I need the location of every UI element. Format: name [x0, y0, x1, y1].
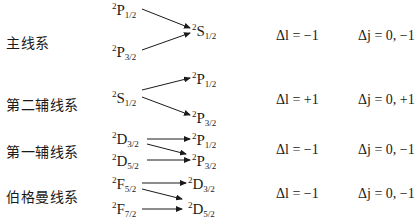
term-2D5/2: 2D5/2	[188, 200, 215, 219]
delta-j: Δj = 0, +1	[358, 92, 415, 108]
term-2D3/2: 2D3/2	[188, 175, 215, 194]
arrow-d32-p32	[147, 144, 186, 154]
term-2D5/2: 2D5/2	[112, 152, 139, 171]
term-2F7/2: 2F7/2	[112, 200, 136, 219]
term-2P1/2: 2P1/2	[192, 70, 216, 89]
arrow-f52-d52	[142, 189, 182, 199]
term-2P1/2: 2P1/2	[192, 131, 216, 150]
series-name-second-subsidiary: 第二辅线系	[6, 94, 79, 114]
term-2S1/2: 2S1/2	[112, 89, 136, 108]
delta-l: Δl = −1	[276, 142, 319, 158]
delta-j: Δj = 0, −1	[358, 28, 415, 44]
delta-l: Δl = −1	[276, 186, 319, 202]
arrow-p12-s12	[142, 9, 190, 28]
arrow-p32-s12	[142, 33, 190, 50]
series-name-principal: 主线系	[6, 32, 50, 52]
term-2S1/2: 2S1/2	[192, 22, 216, 41]
term-2P3/2: 2P3/2	[112, 43, 136, 62]
term-2P3/2: 2P3/2	[192, 109, 216, 128]
delta-l: Δl = +1	[276, 92, 319, 108]
term-2F5/2: 2F5/2	[112, 175, 136, 194]
arrow-s12-p12	[142, 78, 190, 90]
arrow-s12-p32	[142, 97, 190, 115]
term-2P3/2: 2P3/2	[192, 152, 216, 171]
delta-l: Δl = −1	[276, 28, 319, 44]
series-name-bergmann: 伯格曼线系	[6, 186, 79, 206]
delta-j: Δj = 0, −1	[358, 186, 415, 202]
term-2D3/2: 2D3/2	[112, 130, 139, 149]
series-name-first-subsidiary: 第一辅线系	[6, 141, 79, 161]
delta-j: Δj = 0, −1	[358, 142, 415, 158]
term-2P1/2: 2P1/2	[112, 1, 136, 20]
